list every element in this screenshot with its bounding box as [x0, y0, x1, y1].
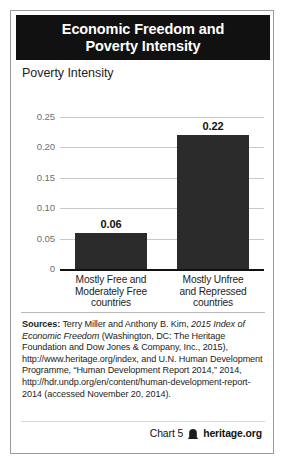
y-axis-tick-label: 0.25: [17, 111, 55, 122]
sources-segment: Terry Miller and Anthony B. Kim,: [60, 319, 191, 329]
chart-area: Poverty Intensity 0.250.200.150.100.0500…: [11, 60, 274, 310]
y-axis-tick-label: 0.20: [17, 141, 55, 152]
sources-title-italic: 2015 Index of: [191, 319, 245, 329]
sources-label: Sources:: [22, 319, 60, 329]
sources-title-italic: Economic Freedom: [22, 331, 99, 341]
plot-region: 0.250.200.150.100.0500.06Mostly Free and…: [11, 60, 274, 310]
brand-label: heritage.org: [203, 428, 262, 439]
category-label-line: Moderately Free: [60, 286, 162, 298]
x-axis-category-label: Mostly Unfreeand Repressedcountries: [162, 274, 264, 309]
category-label-line: and Repressed: [162, 286, 264, 298]
chart-card-inner: Economic Freedom and Poverty Intensity P…: [10, 10, 274, 454]
y-axis-tick-label: 0: [17, 263, 55, 274]
bar-value-label: 0.22: [183, 120, 243, 132]
gridline: [60, 117, 264, 118]
bar-value-label: 0.06: [81, 218, 141, 230]
chart-footer: Chart 5 heritage.org: [150, 428, 262, 439]
footer-divider: [21, 421, 265, 422]
chart-title-banner: Economic Freedom and Poverty Intensity: [16, 15, 270, 60]
chart-title-line-1: Economic Freedom and: [62, 21, 224, 38]
category-label-line: Mostly Free and: [60, 274, 162, 286]
category-label-line: countries: [162, 297, 264, 309]
y-axis-tick-label: 0.05: [17, 233, 55, 244]
y-axis-tick-label: 0.10: [17, 202, 55, 213]
x-axis-category-label: Mostly Free andModerately Freecountries: [60, 274, 162, 309]
category-label-line: countries: [60, 297, 162, 309]
bar[interactable]: [75, 233, 147, 269]
chart-title-line-2: Poverty Intensity: [85, 38, 200, 55]
sources-divider: [21, 312, 265, 313]
bar[interactable]: [177, 135, 249, 269]
chart-card: Economic Freedom and Poverty Intensity P…: [0, 0, 284, 462]
y-axis-tick-label: 0.15: [17, 172, 55, 183]
x-axis-line: [60, 269, 264, 271]
category-label-line: Mostly Unfree: [162, 274, 264, 286]
sources-text: Sources: Terry Miller and Anthony B. Kim…: [22, 319, 266, 400]
heritage-logo-icon: [188, 429, 198, 440]
chart-number-label: Chart 5: [150, 428, 183, 439]
